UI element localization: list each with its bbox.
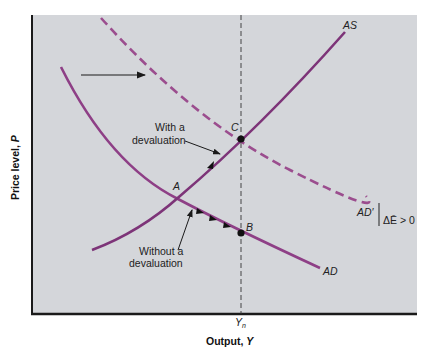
without-devaluation-label-line2: devaluation [129,257,183,269]
point-b-marker [237,229,244,236]
ad-prime-condition: ΔĒ > 0 [383,214,415,226]
y-axis-title: Price level, P [9,134,21,200]
plot-area [32,15,417,314]
as-label: AS [342,19,357,31]
without-devaluation-label-line1: Without a [139,245,184,257]
with-devaluation-label-line1: With a [155,121,185,133]
point-c-label: C [231,121,239,133]
yn-tick-label: Yn [235,316,246,329]
x-axis-title: Output, Y [206,335,254,347]
point-a-label: A [172,180,180,192]
ad-as-devaluation-chart: AS AD AD′ ΔĒ > 0 A B C With a devaluatio… [0,0,435,357]
ad-label: AD [322,265,338,277]
point-c-marker [237,135,244,142]
ad-prime-label: AD′ [356,206,375,218]
point-b-label: B [246,221,253,233]
with-devaluation-label-line2: devaluation [132,134,186,146]
